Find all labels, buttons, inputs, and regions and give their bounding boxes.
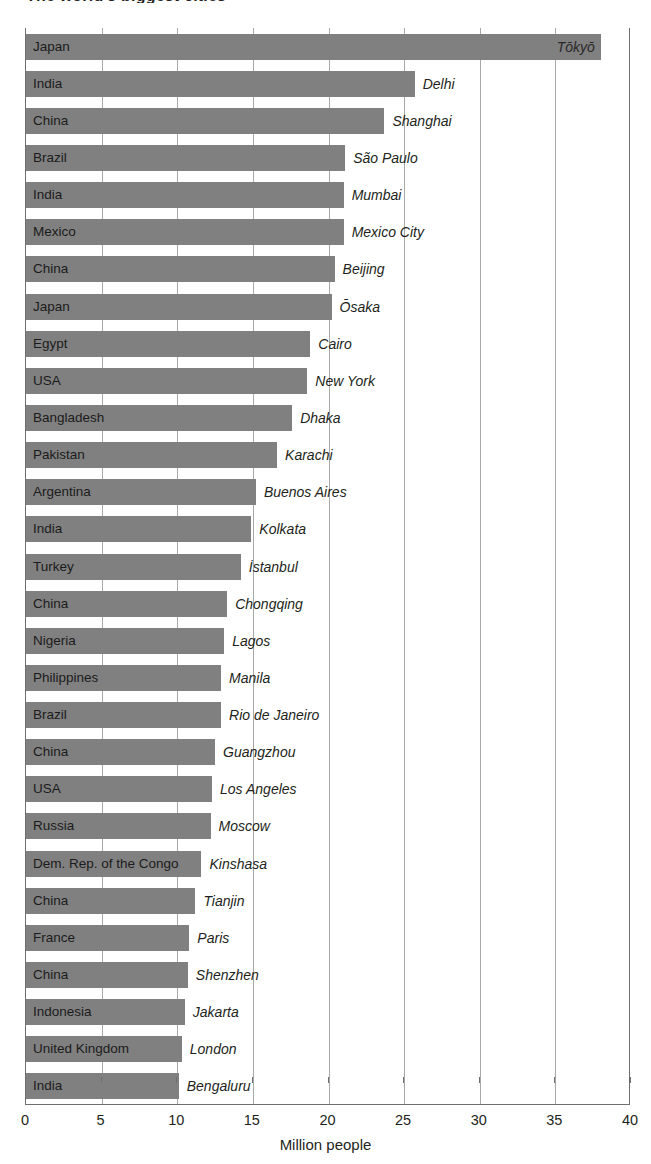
country-label: Pakistan [33, 442, 85, 468]
bar-row[interactable]: ChinaShanghai [26, 108, 631, 134]
bar-row[interactable]: FranceParis [26, 925, 631, 951]
bar-row[interactable]: IndiaBengaluru [26, 1073, 631, 1099]
bar[interactable] [26, 71, 415, 97]
bar[interactable] [26, 108, 384, 134]
country-label: USA [33, 776, 61, 802]
country-label: Dem. Rep. of the Congo [33, 851, 179, 877]
country-label: China [33, 888, 68, 914]
bar-row[interactable]: IndiaDelhi [26, 71, 631, 97]
country-label: France [33, 925, 75, 951]
bar[interactable] [26, 294, 332, 320]
tick-label: 15 [244, 1112, 260, 1128]
tick-label: 10 [168, 1112, 184, 1128]
city-label: Buenos Aires [264, 479, 347, 505]
city-label: Chongqing [235, 591, 303, 617]
bar-row[interactable]: JapanTōkyō [26, 34, 631, 60]
country-label: USA [33, 368, 61, 394]
tick-mark [25, 1077, 26, 1083]
tick-mark [403, 1077, 404, 1083]
plot-area: JapanTōkyōIndiaDelhiChinaShanghaiBrazilS… [25, 28, 630, 1105]
bar-row[interactable]: United KingdomLondon [26, 1036, 631, 1062]
bar-row[interactable]: Dem. Rep. of the CongoKinshasa [26, 851, 631, 877]
bar-row[interactable]: ChinaShenzhen [26, 962, 631, 988]
city-label: Los Angeles [220, 776, 297, 802]
country-label: Brazil [33, 702, 67, 728]
city-label: Paris [197, 925, 229, 951]
country-label: Nigeria [33, 628, 76, 654]
country-label: China [33, 108, 68, 134]
country-label: United Kingdom [33, 1036, 129, 1062]
bar-row[interactable]: ChinaGuangzhou [26, 739, 631, 765]
bar[interactable] [26, 331, 310, 357]
bar-row[interactable]: ChinaTianjin [26, 888, 631, 914]
bar-row[interactable]: IndonesiaJakarta [26, 999, 631, 1025]
bar[interactable] [26, 182, 344, 208]
city-label: Cairo [318, 331, 351, 357]
tick-label: 40 [622, 1112, 638, 1128]
city-label: Dhaka [300, 405, 340, 431]
city-label: Moscow [219, 813, 270, 839]
country-label: Argentina [33, 479, 91, 505]
city-label: Beijing [343, 256, 385, 282]
bar[interactable] [26, 256, 335, 282]
tick-label: 5 [97, 1112, 105, 1128]
country-label: China [33, 739, 68, 765]
bar-row[interactable]: PhilippinesManila [26, 665, 631, 691]
bar-row[interactable]: NigeriaLagos [26, 628, 631, 654]
country-label: China [33, 962, 68, 988]
tick-mark [328, 1077, 329, 1083]
bar-row[interactable]: MexicoMexico City [26, 219, 631, 245]
bar[interactable] [26, 145, 345, 171]
bar-row[interactable]: ChinaBeijing [26, 256, 631, 282]
bar-row[interactable]: BrazilSão Paulo [26, 145, 631, 171]
chart-title: The world's biggest cities [26, 0, 586, 3]
country-label: Bangladesh [33, 405, 104, 431]
city-label: Lagos [232, 628, 270, 654]
bar-row[interactable]: BrazilRio de Janeiro [26, 702, 631, 728]
bar-row[interactable]: Turkeyİstanbul [26, 554, 631, 580]
bar-row[interactable]: BangladeshDhaka [26, 405, 631, 431]
tick-label: 20 [319, 1112, 335, 1128]
country-label: Egypt [33, 331, 68, 357]
bar-row[interactable]: ArgentinaBuenos Aires [26, 479, 631, 505]
city-label: Bengaluru [187, 1073, 251, 1099]
bar-row[interactable]: IndiaKolkata [26, 516, 631, 542]
bar-row[interactable]: IndiaMumbai [26, 182, 631, 208]
bar-row[interactable]: RussiaMoscow [26, 813, 631, 839]
city-label: Tianjin [203, 888, 244, 914]
bar-row[interactable]: PakistanKarachi [26, 442, 631, 468]
country-label: China [33, 591, 68, 617]
bar-chart: The world's biggest cities JapanTōkyōInd… [0, 0, 651, 1164]
bar-row[interactable]: USANew York [26, 368, 631, 394]
tick-mark [101, 1077, 102, 1083]
city-label: São Paulo [353, 145, 418, 171]
city-label: New York [315, 368, 375, 394]
country-label: India [33, 1073, 62, 1099]
country-label: India [33, 516, 62, 542]
x-axis-label: Million people [0, 1136, 651, 1153]
bar-row[interactable]: EgyptCairo [26, 331, 631, 357]
city-label: Rio de Janeiro [229, 702, 319, 728]
tick-mark [554, 1077, 555, 1083]
tick-label: 30 [471, 1112, 487, 1128]
city-label: Mexico City [352, 219, 424, 245]
bar[interactable] [26, 34, 601, 60]
city-label: Shenzhen [196, 962, 259, 988]
tick-mark [630, 1077, 631, 1083]
tick-mark [252, 1077, 253, 1083]
country-label: Japan [33, 294, 70, 320]
tick-mark [176, 1077, 177, 1083]
city-label: Kinshasa [209, 851, 267, 877]
city-label: Mumbai [352, 182, 402, 208]
city-label: Guangzhou [223, 739, 295, 765]
country-label: India [33, 71, 62, 97]
city-label: Kolkata [259, 516, 306, 542]
city-label: Jakarta [193, 999, 239, 1025]
country-label: Philippines [33, 665, 98, 691]
country-label: China [33, 256, 68, 282]
bar-row[interactable]: JapanŌsaka [26, 294, 631, 320]
bar[interactable] [26, 368, 307, 394]
bar-row[interactable]: ChinaChongqing [26, 591, 631, 617]
bar-row[interactable]: USALos Angeles [26, 776, 631, 802]
city-label: Delhi [423, 71, 455, 97]
